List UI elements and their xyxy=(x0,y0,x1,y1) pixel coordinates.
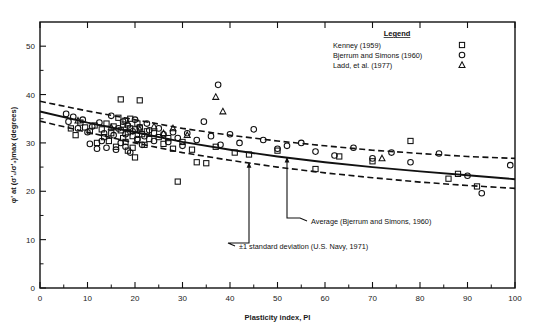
data-point-square xyxy=(189,147,194,152)
x-tick-label: 30 xyxy=(178,294,187,303)
data-point-circle xyxy=(479,190,485,196)
legend-item-label-2: Ladd, et al. (1977) xyxy=(333,61,392,70)
data-point-triangle xyxy=(220,108,226,114)
y-tick-label: 30 xyxy=(26,139,35,148)
x-tick-label: 10 xyxy=(83,294,92,303)
x-tick-label: 20 xyxy=(131,294,140,303)
annotation-leader-average xyxy=(287,158,307,221)
legend-title: Legend xyxy=(384,29,411,38)
data-point-circle xyxy=(180,143,186,149)
legend-item-label-1: Bjerrum and Simons (1960) xyxy=(333,51,422,60)
data-point-square xyxy=(73,133,78,138)
data-point-circle xyxy=(284,143,290,149)
data-point-circle xyxy=(436,151,442,157)
std-dev-curve xyxy=(40,121,515,188)
data-point-square xyxy=(408,138,413,143)
data-point-circle xyxy=(63,111,69,117)
x-tick-label: 80 xyxy=(416,294,425,303)
data-point-circle xyxy=(208,133,214,139)
data-point-circle xyxy=(408,159,414,165)
data-point-square xyxy=(194,160,199,165)
average-curve xyxy=(40,112,515,180)
data-point-circle xyxy=(275,146,281,152)
data-point-circle xyxy=(108,113,114,119)
data-point-circle xyxy=(66,119,72,125)
x-tick-label: 40 xyxy=(226,294,235,303)
y-tick-label: 50 xyxy=(26,42,35,51)
data-point-circle xyxy=(251,127,257,133)
data-point-square xyxy=(204,161,209,166)
chart-figure: 010203040506070809010001020304050Plastic… xyxy=(0,0,548,334)
data-point-circle xyxy=(194,137,200,143)
x-tick-label: 60 xyxy=(321,294,330,303)
data-point-square xyxy=(118,97,123,102)
data-point-triangle xyxy=(459,62,465,68)
x-tick-label: 0 xyxy=(38,294,43,303)
data-point-square xyxy=(459,42,464,47)
x-tick-label: 50 xyxy=(273,294,282,303)
data-point-circle xyxy=(87,141,93,147)
y-tick-label: 20 xyxy=(26,187,35,196)
data-point-square xyxy=(175,179,180,184)
annotation-label-average: Average (Bjerrum and Simons, 1960) xyxy=(311,217,431,226)
y-axis-title: φ' at (σ'₁/σ'₃)max (degrees) xyxy=(9,106,18,203)
legend-item-label-0: Kenney (1959) xyxy=(333,41,381,50)
x-tick-label: 90 xyxy=(463,294,472,303)
x-tick-label: 100 xyxy=(508,294,522,303)
annotation-label-stddev: ±1 standard deviation (U.S. Navy, 1971) xyxy=(239,242,368,251)
data-point-circle xyxy=(104,145,110,151)
data-point-square xyxy=(446,176,451,181)
data-point-circle xyxy=(94,146,100,152)
data-point-square xyxy=(132,155,137,160)
data-point-square xyxy=(137,98,142,103)
y-tick-label: 0 xyxy=(31,284,36,293)
y-tick-label: 10 xyxy=(26,236,35,245)
x-tick-label: 70 xyxy=(368,294,377,303)
data-point-triangle xyxy=(213,94,219,100)
data-point-circle xyxy=(215,82,221,88)
data-point-circle xyxy=(237,140,243,146)
data-point-circle xyxy=(389,150,395,156)
annotation-leader-stddev xyxy=(228,163,249,246)
data-point-circle xyxy=(507,162,513,168)
y-tick-label: 40 xyxy=(26,91,35,100)
data-point-circle xyxy=(201,119,207,125)
data-point-triangle xyxy=(379,155,385,161)
x-axis-title: Plasticity index, PI xyxy=(245,313,311,322)
data-point-circle xyxy=(459,52,465,58)
scatter-plot-svg: 010203040506070809010001020304050Plastic… xyxy=(0,0,548,334)
data-point-circle xyxy=(313,149,319,155)
